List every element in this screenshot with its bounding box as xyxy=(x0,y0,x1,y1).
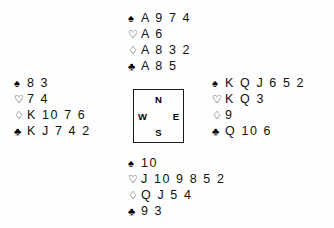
heart-icon: ♡ xyxy=(212,92,225,106)
hand-north: ♠ A 9 7 4 ♡ A 6 ♢ A 8 3 2 ♣ A 8 5 xyxy=(128,11,191,73)
hand-north-spades-row: ♠ A 9 7 4 xyxy=(128,11,191,25)
hand-east-clubs-row: ♣ Q 10 6 xyxy=(212,124,305,138)
hand-west-spades: 8 3 xyxy=(27,76,49,90)
spade-icon: ♠ xyxy=(212,76,225,90)
hand-south: ♠ 10 ♡ J 10 9 8 5 2 ♢ Q J 5 4 ♣ 9 3 xyxy=(128,156,226,218)
compass-label-north: N xyxy=(134,95,183,105)
hand-north-clubs-row: ♣ A 8 5 xyxy=(128,59,191,73)
heart-icon: ♡ xyxy=(14,92,27,106)
hand-west-diamonds: K 10 7 6 xyxy=(27,108,86,122)
hand-west: ♠ 8 3 ♡ 7 4 ♢ K 10 7 6 ♣ K J 7 4 2 xyxy=(14,76,91,138)
diamond-icon: ♢ xyxy=(128,188,141,202)
hand-north-hearts-row: ♡ A 6 xyxy=(128,27,191,41)
club-icon: ♣ xyxy=(128,59,141,73)
hand-west-clubs: K J 7 4 2 xyxy=(27,124,91,138)
hand-east: ♠ K Q J 6 5 2 ♡ K Q 3 ♢ 9 ♣ Q 10 6 xyxy=(212,76,305,138)
hand-west-hearts: 7 4 xyxy=(27,92,49,106)
hand-east-spades-row: ♠ K Q J 6 5 2 xyxy=(212,76,305,90)
hand-east-clubs: Q 10 6 xyxy=(225,124,272,138)
hand-south-diamonds-row: ♢ Q J 5 4 xyxy=(128,188,226,202)
heart-icon: ♡ xyxy=(128,27,141,41)
compass-box: N W E S xyxy=(133,89,184,143)
hand-east-hearts-row: ♡ K Q 3 xyxy=(212,92,305,106)
compass-label-east: E xyxy=(173,112,179,122)
hand-west-spades-row: ♠ 8 3 xyxy=(14,76,91,90)
hand-south-clubs-row: ♣ 9 3 xyxy=(128,204,226,218)
hand-north-hearts: A 6 xyxy=(141,27,164,41)
hand-north-diamonds: A 8 3 2 xyxy=(141,43,191,57)
bridge-deal-diagram: ♠ A 9 7 4 ♡ A 6 ♢ A 8 3 2 ♣ A 8 5 ♠ 8 3 … xyxy=(0,0,334,228)
diamond-icon: ♢ xyxy=(14,108,27,122)
diamond-icon: ♢ xyxy=(212,108,225,122)
spade-icon: ♠ xyxy=(128,11,141,25)
diamond-icon: ♢ xyxy=(128,43,141,57)
club-icon: ♣ xyxy=(212,124,225,138)
hand-south-clubs: 9 3 xyxy=(141,204,163,218)
hand-south-spades: 10 xyxy=(141,156,158,170)
hand-east-diamonds-row: ♢ 9 xyxy=(212,108,305,122)
hand-south-hearts: J 10 9 8 5 2 xyxy=(141,172,226,186)
hand-south-spades-row: ♠ 10 xyxy=(128,156,226,170)
hand-west-clubs-row: ♣ K J 7 4 2 xyxy=(14,124,91,138)
club-icon: ♣ xyxy=(128,204,141,218)
hand-west-diamonds-row: ♢ K 10 7 6 xyxy=(14,108,91,122)
hand-east-diamonds: 9 xyxy=(225,108,234,122)
heart-icon: ♡ xyxy=(128,172,141,186)
club-icon: ♣ xyxy=(14,124,27,138)
spade-icon: ♠ xyxy=(128,156,141,170)
hand-south-diamonds: Q J 5 4 xyxy=(141,188,193,202)
spade-icon: ♠ xyxy=(14,76,27,90)
hand-west-hearts-row: ♡ 7 4 xyxy=(14,92,91,106)
hand-north-clubs: A 8 5 xyxy=(141,59,178,73)
compass-label-south: S xyxy=(134,128,183,138)
hand-south-hearts-row: ♡ J 10 9 8 5 2 xyxy=(128,172,226,186)
hand-east-hearts: K Q 3 xyxy=(225,92,265,106)
hand-north-spades: A 9 7 4 xyxy=(141,11,191,25)
compass-label-west: W xyxy=(138,112,147,122)
hand-east-spades: K Q J 6 5 2 xyxy=(225,76,305,90)
hand-north-diamonds-row: ♢ A 8 3 2 xyxy=(128,43,191,57)
